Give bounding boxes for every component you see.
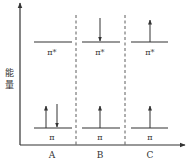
- pi-label: π: [49, 133, 54, 142]
- pi-star-label: π*: [95, 48, 104, 57]
- column-label: B: [97, 150, 104, 160]
- y-axis-label-char-1: 能: [5, 67, 14, 78]
- pi-star-label: π*: [145, 48, 154, 57]
- pi-label: π: [97, 133, 102, 142]
- column-label: C: [147, 150, 154, 160]
- column-label: A: [48, 150, 56, 160]
- column-b: π*πB: [82, 18, 120, 160]
- column-a: π*πA: [34, 42, 72, 160]
- column-c: π*πC: [131, 20, 168, 160]
- pi-label: π: [147, 133, 152, 142]
- energy-level-diagram: 能 量 π*πAπ*πBπ*πC: [0, 0, 190, 163]
- pi-star-label: π*: [47, 48, 56, 57]
- y-axis-label-char-2: 量: [5, 80, 14, 90]
